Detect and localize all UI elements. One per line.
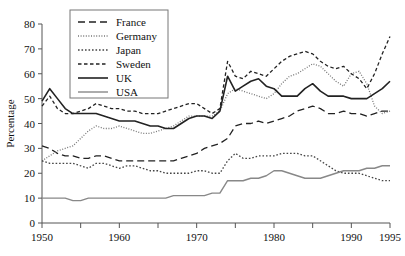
x-axis-tick-label: 1990 — [340, 231, 363, 243]
line-chart: FranceGermanyJapanSwedenUKUSA 0102030405… — [0, 0, 405, 256]
legend-label-sweden: Sweden — [116, 58, 151, 70]
y-axis-tick-label: 70 — [24, 43, 36, 55]
x-axis-tick-label: 1960 — [108, 231, 131, 243]
x-axis-tick-label: 1950 — [31, 231, 54, 243]
x-axis-tick-label: 1970 — [186, 231, 209, 243]
chart-container: FranceGermanyJapanSwedenUKUSA 0102030405… — [0, 0, 405, 256]
legend-label-usa: USA — [116, 86, 138, 98]
series-line-japan — [42, 153, 390, 180]
y-axis-tick-label: 40 — [24, 118, 36, 130]
y-axis-title: Percentage — [4, 99, 16, 147]
x-axis-tick-label: 1980 — [263, 231, 286, 243]
y-axis-tick-label: 20 — [24, 167, 36, 179]
series-line-usa — [42, 166, 390, 201]
y-axis-tick-label: 10 — [24, 192, 36, 204]
axis-labels: 0102030405060708019501960197019801990199… — [4, 18, 402, 243]
legend-label-japan: Japan — [116, 44, 142, 56]
y-axis-tick-label: 80 — [24, 18, 36, 30]
y-axis-tick-label: 60 — [24, 68, 36, 80]
legend-label-france: France — [116, 16, 146, 28]
legend-label-uk: UK — [116, 72, 132, 84]
legend-label-germany: Germany — [116, 30, 157, 42]
x-axis-tick-label: 1995 — [379, 231, 402, 243]
y-axis-tick-label: 30 — [24, 142, 36, 154]
chart-legend: FranceGermanyJapanSwedenUKUSA — [70, 10, 168, 98]
y-axis-tick-label: 50 — [24, 93, 36, 105]
y-axis-tick-label: 0 — [30, 217, 36, 229]
